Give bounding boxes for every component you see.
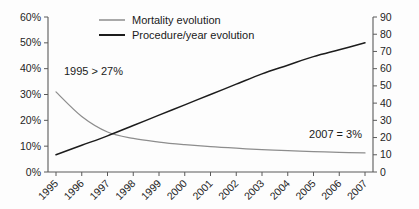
y-axis-left-tick-label: 0%	[26, 166, 41, 178]
x-axis-tick-label: 2004	[267, 177, 292, 202]
y-axis-right-tick-label: 80	[380, 28, 392, 40]
x-axis-tick-label: 1996	[61, 177, 86, 202]
y-axis-left-tick-label: 50%	[20, 36, 41, 48]
y-axis-left-tick-label: 60%	[20, 11, 41, 23]
y-axis-right-tick-label: 40	[380, 97, 392, 109]
x-axis-tick-label: 1997	[87, 177, 112, 202]
chart-figure: 0%10%20%30%40%50%60% 0102030405060708090…	[0, 0, 419, 209]
legend: Mortality evolution Procedure/year evolu…	[99, 14, 254, 41]
y-axis-left: 0%10%20%30%40%50%60%	[20, 11, 48, 178]
y-axis-right-tick-label: 60	[380, 62, 392, 74]
y-axis-left-tick-label: 10%	[20, 140, 41, 152]
legend-label-mortality: Mortality evolution	[132, 14, 221, 26]
y-axis-right-tick-label: 50	[380, 79, 392, 91]
y-axis-left-tick-label: 30%	[20, 88, 41, 100]
x-axis-tick-label: 1999	[138, 177, 163, 202]
x-axis-tick-label: 2002	[216, 177, 241, 202]
x-axis-tick-label: 1995	[35, 177, 60, 202]
y-axis-right-tick-label: 70	[380, 45, 392, 57]
x-axis: 1995199619971998199920002001200220032004…	[35, 172, 369, 202]
x-axis-tick-label: 2005	[293, 177, 318, 202]
legend-label-procedure: Procedure/year evolution	[132, 29, 254, 41]
y-axis-right-tick-label: 30	[380, 114, 392, 126]
annotation-end-note: 2007 = 3%	[309, 128, 362, 140]
x-axis-tick-label: 2006	[319, 177, 344, 202]
y-axis-right-tick-label: 20	[380, 131, 392, 143]
line-chart: 0%10%20%30%40%50%60% 0102030405060708090…	[0, 0, 419, 209]
series-line-mortality-evolution	[56, 92, 365, 153]
y-axis-right-tick-label: 10	[380, 148, 392, 160]
annotation-start-note: 1995 > 27%	[64, 65, 123, 77]
y-axis-right: 0102030405060708090	[373, 11, 392, 178]
x-axis-tick-label: 2003	[241, 177, 266, 202]
y-axis-right-tick-label: 90	[380, 11, 392, 23]
y-axis-left-tick-label: 40%	[20, 62, 41, 74]
x-axis-tick-label: 2001	[190, 177, 215, 202]
x-axis-tick-label: 2007	[344, 177, 369, 202]
y-axis-left-tick-label: 20%	[20, 114, 41, 126]
x-axis-tick-label: 1998	[113, 177, 138, 202]
x-axis-tick-label: 2000	[164, 177, 189, 202]
y-axis-right-tick-label: 0	[380, 166, 386, 178]
